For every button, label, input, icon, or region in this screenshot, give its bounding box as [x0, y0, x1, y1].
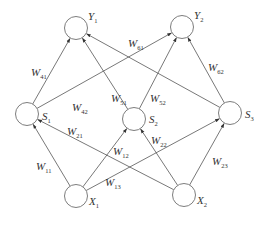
- edge-label-w11: W11: [36, 160, 51, 174]
- edge-label-w42: W42: [72, 101, 88, 115]
- node-label-s3: S3: [245, 108, 254, 122]
- edge-label-w23: W23: [212, 155, 228, 169]
- node-label-x2: X2: [196, 194, 207, 208]
- node-label-s2: S2: [149, 113, 158, 127]
- node-circle-x1: [65, 185, 88, 208]
- neural-network-diagram: Y1Y2S1S2S3X1X2 W11W12W13W21W22W23W41W42W…: [0, 0, 267, 228]
- node-y1: Y1: [65, 10, 98, 40]
- node-circle-y2: [171, 16, 194, 39]
- edge-label-w51: W51: [111, 92, 127, 106]
- node-s2: S2: [123, 108, 158, 131]
- node-circle-y1: [65, 17, 88, 40]
- node-y2: Y2: [171, 9, 204, 39]
- edge-label-w61: W61: [128, 37, 144, 51]
- node-x2: X2: [173, 184, 207, 208]
- node-s1: S1: [16, 103, 51, 126]
- edge-label-w13: W13: [105, 176, 121, 190]
- diagram-svg: Y1Y2S1S2S3X1X2 W11W12W13W21W22W23W41W42W…: [0, 0, 267, 228]
- node-s3: S3: [219, 102, 254, 125]
- node-circle-s2: [123, 108, 146, 131]
- edge-label-w52: W52: [150, 92, 166, 106]
- edge-label-w41: W41: [31, 66, 47, 80]
- node-circle-s3: [219, 102, 242, 125]
- edge-label-w62: W62: [208, 61, 224, 75]
- node-label-s1: S1: [42, 110, 51, 124]
- node-circle-x2: [173, 184, 196, 207]
- node-label-y1: Y1: [88, 10, 97, 24]
- node-circle-s1: [16, 103, 39, 126]
- node-label-y2: Y2: [194, 9, 203, 23]
- node-label-x1: X1: [88, 195, 99, 209]
- edge-label-w12: W12: [113, 145, 129, 159]
- edge-label-w21: W21: [67, 125, 83, 139]
- edge-label-w22: W22: [151, 134, 167, 148]
- node-x1: X1: [65, 185, 99, 209]
